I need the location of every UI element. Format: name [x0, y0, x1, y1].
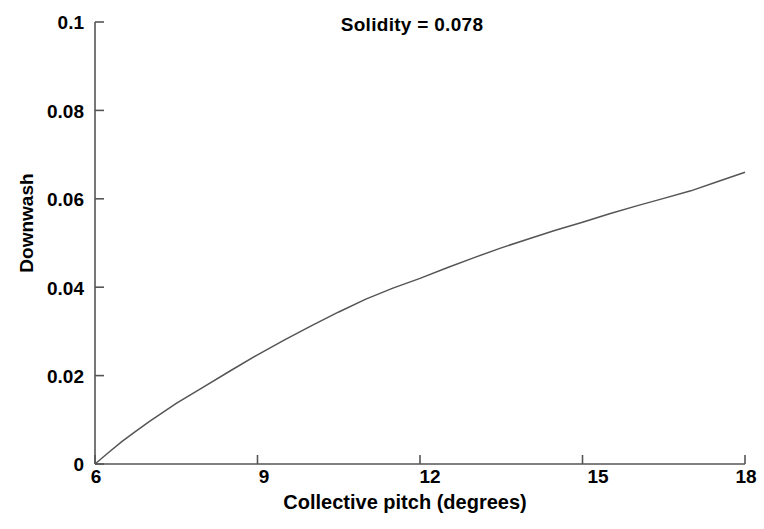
data-series-line — [95, 172, 745, 464]
x-tick-label-2: 12 — [410, 466, 450, 488]
axis-lines — [95, 22, 745, 464]
x-axis-ticks — [95, 455, 745, 464]
x-tick-label-4: 18 — [726, 466, 764, 488]
chart-figure: Solidity = 0.078 Downwash Collective pit… — [0, 0, 764, 529]
x-tick-label-3: 15 — [578, 466, 618, 488]
y-tick-label-5: 0.1 — [4, 12, 84, 34]
x-tick-label-1: 9 — [244, 466, 284, 488]
y-axis-label: Downwash — [16, 163, 38, 283]
y-tick-label-4: 0.08 — [4, 101, 84, 123]
plot-area — [0, 0, 764, 529]
x-tick-label-0: 6 — [76, 466, 116, 488]
x-axis-label: Collective pitch (degrees) — [195, 491, 615, 514]
y-tick-label-0: 0 — [4, 454, 84, 476]
y-tick-label-2: 0.04 — [4, 278, 84, 300]
y-axis-ticks — [95, 22, 104, 464]
chart-title: Solidity = 0.078 — [282, 14, 542, 36]
y-tick-label-3: 0.06 — [4, 189, 84, 211]
y-tick-label-1: 0.02 — [4, 366, 84, 388]
